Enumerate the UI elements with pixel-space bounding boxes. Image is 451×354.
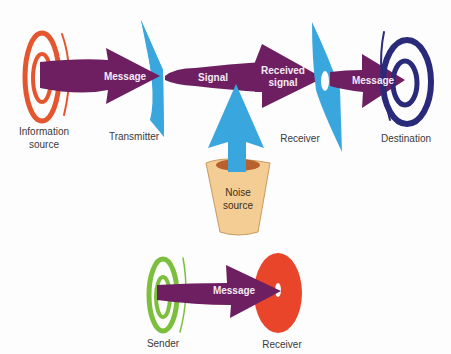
received-signal-label-line1: Received — [261, 65, 305, 76]
information-source-label-line1: Information — [19, 126, 69, 137]
diagram-svg: Message Signal Received signal Message I… — [0, 0, 451, 354]
receiver-label: Receiver — [280, 133, 320, 144]
signal-arrow-label: Signal — [198, 72, 228, 83]
bottom-message-arrow-label: Message — [213, 285, 256, 296]
bottom-receiver-label: Receiver — [262, 339, 302, 350]
communication-model-diagram: Message Signal Received signal Message I… — [0, 0, 451, 354]
information-source-label-line2: source — [29, 139, 59, 150]
noise-arrow — [208, 84, 264, 172]
transmitter-label: Transmitter — [109, 131, 160, 142]
sender-label: Sender — [147, 338, 180, 349]
received-signal-label-line2: signal — [269, 77, 298, 88]
noise-source-label-line2: source — [223, 200, 253, 211]
destination-label: Destination — [381, 133, 431, 144]
message-arrow-2-label: Message — [352, 75, 395, 86]
noise-source-label-line1: Noise — [225, 187, 251, 198]
message-arrow-1-label: Message — [104, 71, 147, 82]
